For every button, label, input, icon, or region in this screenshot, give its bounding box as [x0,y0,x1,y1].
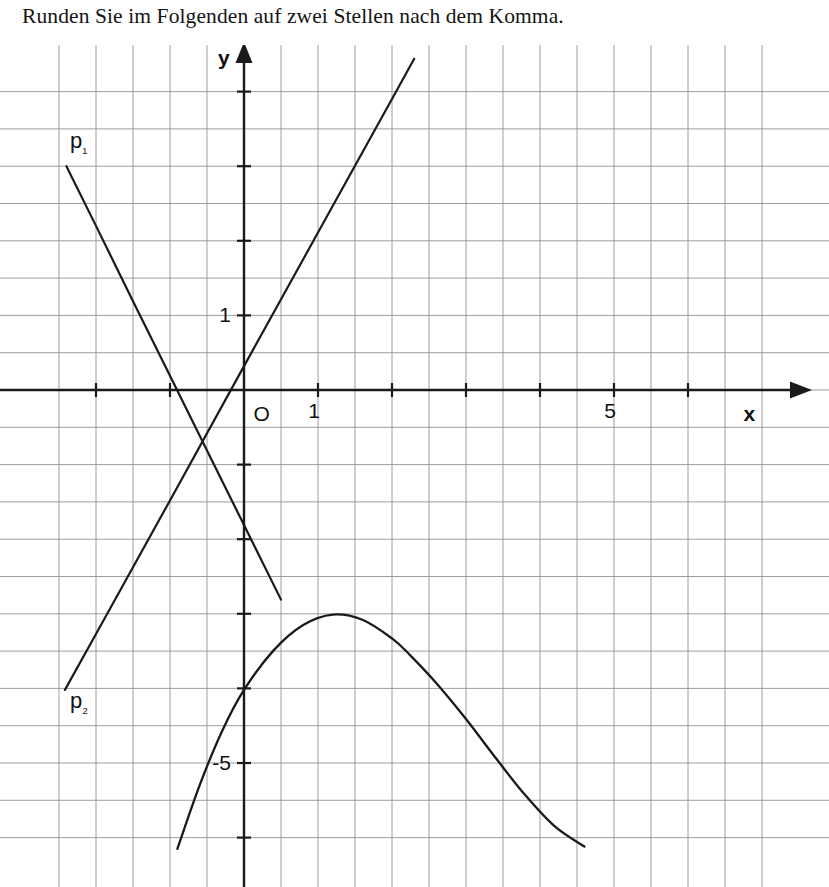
worksheet-page: Runden Sie im Folgenden auf zwei Stellen… [0,0,829,887]
y-axis-arrowhead [236,45,253,63]
origin-label: O [254,402,270,425]
curve-label-p2: p₂ [70,688,88,716]
x-tick-label: 5 [604,399,616,422]
x-axis-arrowhead [790,382,812,399]
curve-p2 [65,59,414,690]
plotted-curves [65,59,584,849]
curve-label-p1: p₁ [70,128,87,156]
y-tick-label: 1 [219,303,231,326]
axis-name-labels: yxO [218,46,755,425]
x-tick-label: 1 [308,399,320,422]
curve-f [177,614,584,848]
axes-group [0,45,812,887]
curve-labels: p₁p₂ [70,128,88,716]
y-tick-label: -5 [212,751,231,774]
x-axis-label: x [744,402,756,425]
instruction-text: Runden Sie im Folgenden auf zwei Stellen… [22,2,564,30]
coordinate-plot-figure: 151-5 p₁p₂ yxO [0,45,829,887]
plot-svg: 151-5 p₁p₂ yxO [0,45,829,887]
grid-lines-minor [0,45,829,887]
y-axis-label: y [218,46,230,69]
curve-p1 [66,166,281,599]
